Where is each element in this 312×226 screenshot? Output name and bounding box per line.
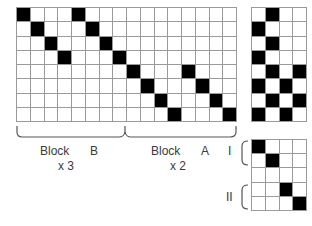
group-i-bracket xyxy=(242,141,248,165)
block-a-label: Block xyxy=(151,145,180,157)
block-a-letter: A xyxy=(201,145,209,157)
brackets-overlay xyxy=(0,0,312,226)
block-a-brace xyxy=(125,126,236,137)
group-ii-bracket xyxy=(242,185,248,209)
block-b-letter: B xyxy=(90,145,98,157)
block-a-multiplier: x 2 xyxy=(170,160,186,172)
block-b-brace xyxy=(17,126,125,137)
block-b-multiplier: x 3 xyxy=(58,160,74,172)
group-ii-label: II xyxy=(226,191,233,203)
group-i-label: I xyxy=(228,145,231,157)
block-b-label: Block xyxy=(40,145,69,157)
